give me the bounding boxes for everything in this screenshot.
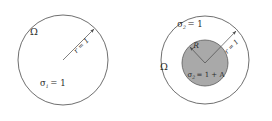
left-conductivity-text: σ1= 1 [40,78,66,89]
left-sigma-subscript: 1 [46,84,49,89]
right-inner-sigma-subscript: 2 [191,75,195,80]
right-outer-conductivity-text: σ2= 1 [177,19,203,30]
left-domain-label: Ω [30,26,38,37]
right-outer-conductivity-label: σ2= 1 [177,19,203,30]
right-inner-sigma-value: = 1 + A [197,71,226,79]
left-conductivity-label: σ1= 1 [40,78,66,89]
figure-root: Ω r = 1 σ1= 1 σ2= 1 Ω R [0,0,272,121]
geometry-figure: Ω r = 1 σ1= 1 σ2= 1 Ω R [0,0,272,121]
left-sigma-value: = 1 [50,78,65,88]
left-panel: Ω r = 1 σ1= 1 [18,15,108,105]
right-inclusion-radius-label: R [192,41,199,50]
right-panel: σ2= 1 Ω R r = 1 σ2= 1 + A [160,16,249,104]
right-outer-sigma-value: = 1 [188,19,203,29]
right-outer-sigma-subscript: 2 [182,25,186,30]
right-domain-label: Ω [160,61,168,72]
